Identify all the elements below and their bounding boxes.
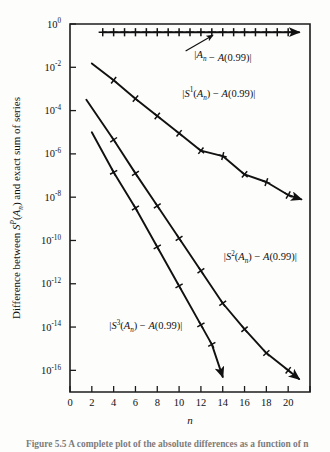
series-2-marker-1 <box>132 170 139 177</box>
x-axis-title: n <box>187 414 193 426</box>
series-2-marker-8 <box>285 367 291 373</box>
series-label-2: |S2(An) − A(0.99)| <box>224 250 297 265</box>
series-0-marker-17 <box>284 28 292 36</box>
series-label-0: |An − A(0.99)| <box>194 49 251 64</box>
y-axis-title: Difference between SP(An) and exact sum … <box>10 97 25 319</box>
y-tick-label-6: 10-12 <box>41 277 61 289</box>
y-tick-label-2: 10-4 <box>45 104 62 116</box>
series-0-marker-12 <box>230 28 238 36</box>
series-label-1: |S1(An) − A(0.99)| <box>182 86 255 101</box>
series-3-marker-2 <box>154 243 161 250</box>
series-0-marker-14 <box>251 28 259 36</box>
series-1-marker-2 <box>154 113 160 119</box>
figure-caption: Figure 5.5 A complete plot of the absolu… <box>26 439 308 449</box>
plot-frame <box>70 24 310 392</box>
figure-root: 10010-210-410-610-810-1010-1210-1410-160… <box>0 0 330 452</box>
series-2-marker-6 <box>241 326 247 332</box>
series-0-marker-15 <box>262 28 270 36</box>
series-1-marker-3 <box>176 130 182 136</box>
x-tick-label-5: 10 <box>174 397 185 408</box>
series-label-3: |S3(An) − A(0.99)| <box>109 319 182 334</box>
series-line-2 <box>86 100 299 379</box>
series-2-marker-3 <box>176 235 183 242</box>
series-0-marker-7 <box>175 28 183 36</box>
series-0-marker-5 <box>153 28 161 36</box>
series-0-marker-4 <box>142 28 150 36</box>
x-tick-label-6: 12 <box>196 397 207 408</box>
series-3-marker-4 <box>197 321 204 328</box>
x-tick-label-8: 16 <box>239 397 250 408</box>
y-tick-label-4: 10-8 <box>45 190 62 202</box>
y-tick-label-1: 10-2 <box>45 60 62 72</box>
series-2-marker-5 <box>219 300 226 307</box>
series-0-marker-16 <box>273 28 281 36</box>
y-tick-label-3: 10-6 <box>45 147 62 159</box>
series-1-marker-0 <box>110 77 116 83</box>
series-0-marker-6 <box>164 28 172 36</box>
series-2-marker-4 <box>198 267 205 274</box>
x-tick-label-7: 14 <box>217 397 228 408</box>
series-0-marker-1 <box>110 28 118 36</box>
x-tick-label-3: 6 <box>133 397 138 408</box>
series-0-marker-3 <box>131 28 139 36</box>
series-2-marker-2 <box>154 202 161 209</box>
x-tick-label-10: 20 <box>283 397 294 408</box>
y-tick-label-7: 10-14 <box>41 320 61 332</box>
x-tick-label-2: 4 <box>111 397 117 408</box>
caption-strip: Figure 5.5 A complete plot of the absolu… <box>0 438 330 452</box>
series-line-1 <box>92 63 301 199</box>
x-tick-label-4: 8 <box>155 397 160 408</box>
series-1-marker-1 <box>132 96 138 102</box>
series-0-marker-0 <box>99 28 107 36</box>
series-3-marker-3 <box>176 282 183 289</box>
x-tick-label-1: 2 <box>89 397 94 408</box>
series-0-marker-8 <box>186 28 194 36</box>
chart-canvas: 10010-210-410-610-810-1010-1210-1410-160… <box>0 0 330 452</box>
x-tick-label-9: 18 <box>261 397 272 408</box>
x-tick-label-0: 0 <box>67 397 72 408</box>
series-0-marker-9 <box>197 28 205 36</box>
series-0-marker-10 <box>208 28 216 36</box>
y-tick-label-8: 10-16 <box>41 364 61 376</box>
series-0-marker-13 <box>240 28 248 36</box>
series-0-marker-2 <box>120 28 128 36</box>
series-2-marker-7 <box>263 350 269 356</box>
series-0-marker-11 <box>219 28 227 36</box>
y-tick-label-5: 10-10 <box>41 234 61 246</box>
series-2-marker-0 <box>110 136 117 143</box>
y-tick-label-0: 100 <box>47 17 62 29</box>
